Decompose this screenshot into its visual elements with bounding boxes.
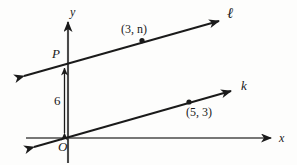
y-axis-label: y	[70, 6, 75, 18]
line-label-l: ℓ	[227, 6, 233, 21]
x-axis-label: x	[279, 132, 284, 144]
origin-label: O	[58, 140, 67, 153]
diagram-canvas	[0, 0, 297, 165]
point-marker-on-line-l	[139, 38, 144, 43]
point-marker-on-line-k	[186, 99, 191, 104]
coordinate-label-point-on-l: (3, n)	[121, 23, 147, 35]
geometry-figure: y x P O 6 (3, n) (5, 3) ℓ k	[0, 0, 297, 165]
coordinate-label-point-on-k: (5, 3)	[186, 106, 212, 118]
point-label-p: P	[52, 47, 60, 60]
line-label-k: k	[241, 79, 247, 92]
measurement-label-6: 6	[54, 94, 61, 107]
